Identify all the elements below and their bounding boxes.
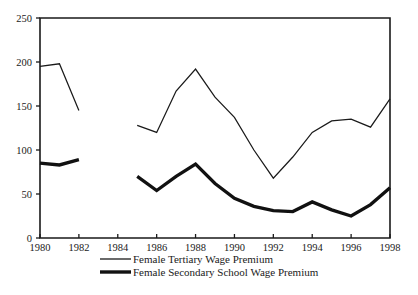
y-tick-label: 150	[16, 101, 32, 112]
plot-border	[40, 18, 390, 238]
x-tick-label: 1992	[263, 242, 284, 253]
x-tick-label: 1990	[224, 242, 245, 253]
x-tick-label: 1998	[380, 242, 401, 253]
legend-label-tertiary: Female Tertiary Wage Premium	[133, 253, 273, 265]
x-tick-label: 1984	[107, 242, 129, 253]
plot-frame	[40, 18, 390, 238]
legend-label-secondary: Female Secondary School Wage Premium	[133, 266, 319, 278]
x-tick-label: 1996	[341, 242, 362, 253]
y-tick-label: 250	[16, 13, 32, 24]
y-tick-label: 50	[22, 189, 33, 200]
x-tick-label: 1988	[185, 242, 206, 253]
x-axis: 1980198219841986198819901992199419961998	[30, 234, 401, 253]
wage-premium-line-chart: 050100150200250 198019821984198619881990…	[0, 0, 418, 295]
x-tick-label: 1986	[146, 242, 167, 253]
chart-legend: Female Tertiary Wage Premium Female Seco…	[100, 253, 319, 278]
x-tick-label: 1980	[30, 242, 51, 253]
series-line-female-tertiary-wage-premium	[40, 64, 390, 178]
x-tick-label: 1982	[68, 242, 89, 253]
chart-container: 050100150200250 198019821984198619881990…	[0, 0, 418, 295]
series-group	[40, 64, 390, 216]
series-line-female-secondary-school-wage-premium	[40, 160, 390, 216]
y-tick-label: 200	[16, 57, 32, 68]
y-axis: 050100150200250	[16, 13, 40, 244]
y-tick-label: 100	[16, 145, 32, 156]
x-tick-label: 1994	[302, 242, 324, 253]
